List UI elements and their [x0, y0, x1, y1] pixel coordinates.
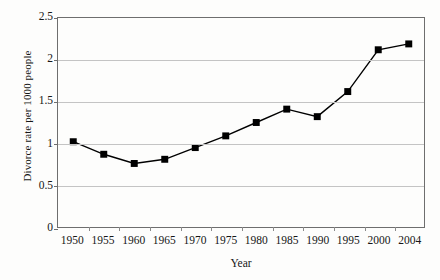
data-point-marker	[131, 160, 138, 167]
y-tick-mark	[54, 18, 58, 19]
divorce-rate-line-chart: Divorce rate per 1000 people 00.511.522.…	[0, 0, 440, 280]
x-tick-mark	[181, 227, 182, 231]
x-tick-label: 2004	[388, 233, 432, 247]
data-series-divorce-rate	[58, 18, 424, 227]
y-tick-mark	[54, 229, 58, 230]
gridline	[58, 144, 424, 145]
x-tick-mark	[365, 227, 366, 231]
y-tick-label: 0.5	[29, 180, 53, 192]
data-point-marker	[283, 106, 290, 113]
y-tick-label: 1	[29, 138, 53, 150]
gridline	[58, 102, 424, 103]
y-tick-mark	[54, 102, 58, 103]
x-tick-mark	[242, 227, 243, 231]
x-tick-mark	[211, 227, 212, 231]
x-axis-title: Year	[57, 256, 425, 270]
y-tick-mark	[54, 186, 58, 187]
y-tick-mark	[54, 60, 58, 61]
plot-area	[57, 17, 425, 228]
y-axis-tick-labels: 00.511.522.5	[25, 0, 53, 280]
x-tick-mark	[150, 227, 151, 231]
data-point-marker	[161, 156, 168, 163]
x-axis-tick-labels: 1950195519601965197019751980198519901995…	[57, 233, 425, 249]
data-point-marker	[405, 40, 412, 47]
x-tick-mark	[89, 227, 90, 231]
data-point-marker	[222, 132, 229, 139]
data-point-marker	[100, 151, 107, 158]
series-line	[73, 44, 409, 164]
x-tick-mark	[395, 227, 396, 231]
gridline	[58, 60, 424, 61]
y-tick-label: 0	[29, 222, 53, 234]
x-tick-mark	[273, 227, 274, 231]
x-tick-mark	[303, 227, 304, 231]
gridline	[58, 186, 424, 187]
y-tick-label: 2	[29, 53, 53, 65]
data-point-marker	[253, 119, 260, 126]
x-tick-mark	[119, 227, 120, 231]
y-tick-label: 1.5	[29, 95, 53, 107]
data-point-marker	[314, 113, 321, 120]
data-point-marker	[192, 144, 199, 151]
x-tick-mark	[334, 227, 335, 231]
y-tick-label: 2.5	[29, 11, 53, 23]
data-point-marker	[344, 88, 351, 95]
y-tick-mark	[54, 144, 58, 145]
data-point-marker	[375, 46, 382, 53]
